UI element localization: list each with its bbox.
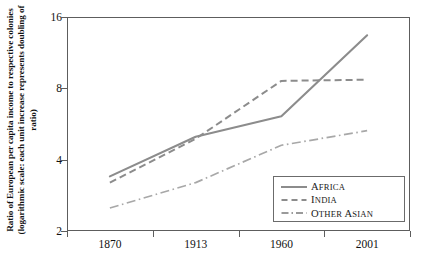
legend-swatch-dash-dot-icon xyxy=(281,208,307,218)
legend-item-africa[interactable]: AFRICA xyxy=(281,180,404,193)
legend-swatch-dashed-icon xyxy=(281,195,307,205)
legend-label-africa-first: A xyxy=(311,181,319,192)
series-line-africa xyxy=(110,35,367,176)
legend-label-india: INDIA xyxy=(311,194,337,205)
legend-label-india-rest: NDIA xyxy=(315,195,337,205)
chart-container: Ratio of European per capita income to r… xyxy=(0,0,428,265)
legend-label-other-asian-first: O xyxy=(311,208,319,219)
legend-label-africa-rest: FRICA xyxy=(319,182,345,192)
legend: AFRICA INDIA OTHER ASIAN xyxy=(273,176,405,222)
legend-item-india[interactable]: INDIA xyxy=(281,193,404,206)
legend-swatch-solid-icon xyxy=(281,182,307,192)
legend-label-africa: AFRICA xyxy=(311,181,345,192)
legend-label-other-asian-rest2: SIAN xyxy=(352,209,373,219)
legend-label-other-asian-rest: THER xyxy=(319,209,345,219)
series-line-india xyxy=(110,80,367,183)
legend-item-other-asian[interactable]: OTHER ASIAN xyxy=(281,207,404,220)
legend-label-other-asian: OTHER ASIAN xyxy=(311,208,373,219)
series-layer xyxy=(0,0,428,265)
